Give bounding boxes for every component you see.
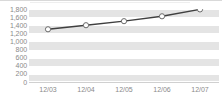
data-point-marker	[121, 19, 126, 24]
x-axis-tick-label: 12/06	[153, 86, 171, 94]
data-point-marker	[159, 14, 164, 19]
y-axis-tick-label: 0	[0, 79, 27, 86]
y-axis: 1,8001,6001,4001,2001,0008006004002000	[0, 0, 27, 104]
x-axis-tick-label: 12/07	[191, 86, 209, 94]
data-point-marker	[45, 27, 50, 32]
y-axis-tick-label: 1,200	[0, 30, 27, 37]
y-axis-tick-label: 200	[0, 70, 27, 77]
top-frame-rule	[0, 0, 222, 1]
series-markers	[45, 9, 202, 32]
series-layer	[29, 9, 219, 82]
x-axis-tick-label: 12/03	[39, 86, 57, 94]
y-axis-tick-label: 1,600	[0, 14, 27, 21]
y-axis-tick-label: 600	[0, 54, 27, 61]
y-axis-tick-label: 1,800	[0, 6, 27, 13]
line-chart: 1,8001,6001,4001,2001,0008006004002000 1…	[0, 0, 222, 104]
x-axis-tick-label: 12/04	[77, 86, 95, 94]
y-axis-tick-label: 1,000	[0, 38, 27, 45]
x-axis-baseline	[29, 82, 219, 83]
y-axis-tick-label: 400	[0, 62, 27, 69]
y-axis-tick-label: 1,400	[0, 22, 27, 29]
data-point-marker	[197, 9, 202, 12]
x-axis-tick-label: 12/05	[115, 86, 133, 94]
x-axis: 12/0312/0412/0512/0612/07	[29, 86, 219, 98]
data-point-marker	[83, 23, 88, 28]
y-axis-tick-label: 800	[0, 46, 27, 53]
top-frame-rule-secondary	[30, 2, 190, 3]
plot-area	[29, 9, 219, 82]
